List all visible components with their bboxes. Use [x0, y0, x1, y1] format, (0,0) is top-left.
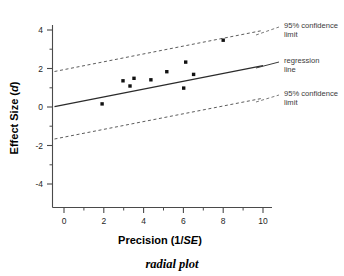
x-ticklabel-8: 8 — [221, 216, 226, 226]
data-point — [149, 78, 152, 81]
annotation-upper-ci: 95% confidence limit — [284, 21, 338, 39]
chart-canvas: 4 2 0 -2 -4 0 2 4 6 8 10 — [0, 0, 344, 276]
y-axis-title: Effect Size (d) — [8, 81, 20, 154]
x-ticklabel-4: 4 — [141, 216, 146, 226]
y-axis — [47, 25, 53, 208]
lower-confidence-limit-line — [55, 98, 264, 139]
data-point — [121, 79, 124, 82]
x-axis-title-plain: Precision (1/ — [118, 234, 183, 246]
y-ticklabel-minus2: -2 — [35, 141, 43, 151]
upper-ci-label-line2: limit — [284, 30, 298, 39]
x-ticklabel-6: 6 — [181, 216, 186, 226]
y-tick-labels: 4 2 0 -2 -4 — [35, 25, 43, 189]
y-ticklabel-0: 0 — [38, 102, 43, 112]
x-tick-labels: 0 2 4 6 8 10 — [62, 216, 268, 226]
y-ticklabel-4: 4 — [38, 25, 43, 35]
data-point — [132, 77, 135, 80]
y-axis-title-plain: Effect Size ( — [8, 92, 20, 155]
y-ticklabel-2: 2 — [38, 64, 43, 74]
annotation-lower-ci: 95% confidence limit — [284, 89, 338, 107]
scatter-points — [100, 39, 224, 106]
lower-ci-label-line1: 95% confidence — [284, 89, 338, 98]
x-axis-title-tail: ) — [198, 234, 202, 246]
upper-ci-label-line1: 95% confidence — [284, 21, 338, 30]
regression-leader-line — [256, 62, 279, 68]
x-ticklabel-10: 10 — [258, 216, 268, 226]
x-ticklabel-0: 0 — [62, 216, 67, 226]
regression-label-line1: regression — [284, 56, 319, 65]
data-point — [128, 84, 131, 87]
regression-label-line2: line — [284, 65, 296, 74]
data-point — [192, 73, 195, 76]
lower-ci-label-line2: limit — [284, 98, 298, 107]
x-axis-title: Precision (1/SE) — [118, 234, 202, 246]
data-point — [182, 86, 185, 89]
data-point — [184, 60, 187, 63]
data-point — [165, 70, 168, 73]
y-ticklabel-minus4: -4 — [35, 179, 43, 189]
radial-plot-figure: 4 2 0 -2 -4 0 2 4 6 8 10 — [0, 0, 344, 276]
x-ticklabel-2: 2 — [101, 216, 106, 226]
y-axis-title-tail: ) — [8, 81, 20, 85]
figure-caption: radial plot — [145, 257, 199, 271]
x-axis-title-italic: SE — [184, 234, 199, 246]
data-point — [100, 102, 103, 105]
upper-confidence-limit-line — [55, 30, 264, 71]
regression-line — [55, 66, 264, 107]
x-axis — [53, 208, 273, 214]
data-point — [222, 39, 225, 42]
annotation-regression: regression line — [284, 56, 319, 74]
